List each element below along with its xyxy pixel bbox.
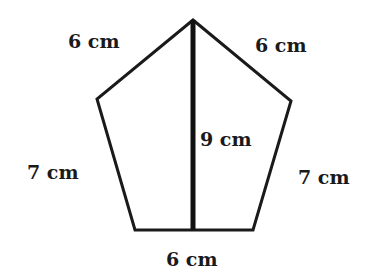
pentagon-figure bbox=[0, 0, 382, 275]
left-side-label: 7 cm bbox=[27, 163, 79, 182]
right-side-label: 7 cm bbox=[298, 168, 350, 187]
top-right-side-label: 6 cm bbox=[255, 36, 307, 55]
bottom-side-label: 6 cm bbox=[166, 250, 218, 269]
top-left-side-label: 6 cm bbox=[68, 32, 120, 51]
height-label: 9 cm bbox=[200, 130, 252, 149]
pentagon-diagram: 6 cm 6 cm 9 cm 7 cm 7 cm 6 cm bbox=[0, 0, 382, 275]
